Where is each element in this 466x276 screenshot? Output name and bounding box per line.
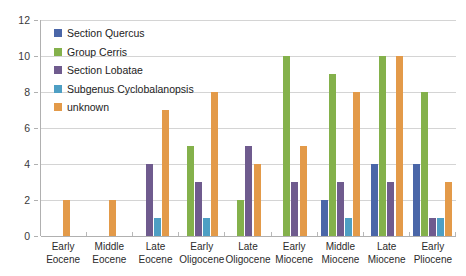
- bar: [300, 146, 307, 236]
- x-axis-label: EarlyOligocene: [179, 240, 225, 266]
- x-axis-label-line: Middle: [86, 240, 132, 253]
- x-axis-label-line: Eocene: [86, 253, 132, 266]
- legend-label: Section Quercus: [67, 27, 145, 39]
- x-axis-label-line: Eocene: [132, 253, 178, 266]
- y-tick-label: 8: [2, 86, 30, 98]
- bar: [237, 200, 244, 236]
- bar: [321, 200, 328, 236]
- x-axis-label-line: Middle: [317, 240, 363, 253]
- x-axis-label-line: Early: [179, 240, 225, 253]
- bar: [437, 218, 444, 236]
- y-tick-label: 6: [2, 122, 30, 134]
- x-axis-label: LateEocene: [132, 240, 178, 266]
- x-axis-label-line: Oligocene: [225, 253, 271, 266]
- bar: [187, 146, 194, 236]
- x-axis-label-line: Late: [132, 240, 178, 253]
- x-axis-label: EarlyPliocene: [410, 240, 456, 266]
- bar: [146, 164, 153, 236]
- legend-item: Section Quercus: [54, 24, 194, 43]
- y-tick-mark: [34, 56, 38, 57]
- y-tick-label: 2: [2, 194, 30, 206]
- bar: [203, 218, 210, 236]
- legend-swatch-icon: [54, 29, 62, 37]
- y-tick-mark: [34, 92, 38, 93]
- legend-item: Subgenus Cyclobalanopsis: [54, 80, 194, 99]
- y-tick-mark: [34, 128, 38, 129]
- bar-group: [272, 20, 318, 236]
- x-axis-label-line: Late: [225, 240, 271, 253]
- y-axis-labels: 024681012: [0, 20, 34, 236]
- x-axis-label: LateMiocene: [364, 240, 410, 266]
- x-axis-label-line: Miocene: [364, 253, 410, 266]
- y-tick-mark: [34, 164, 38, 165]
- bar: [291, 182, 298, 236]
- bar-group: [318, 20, 364, 236]
- bar: [371, 164, 378, 236]
- chart-legend: Section QuercusGroup CerrisSection Lobat…: [54, 24, 194, 117]
- bar: [429, 218, 436, 236]
- x-axis-label-line: Miocene: [271, 253, 317, 266]
- bar: [63, 200, 70, 236]
- x-axis-label: EarlyMiocene: [271, 240, 317, 266]
- y-tick-label: 10: [2, 50, 30, 62]
- bar-group: [225, 20, 271, 236]
- bar: [413, 164, 420, 236]
- bar: [396, 56, 403, 236]
- bar: [379, 56, 386, 236]
- x-axis-label-line: Eocene: [40, 253, 86, 266]
- x-axis-label: LateOligocene: [225, 240, 271, 266]
- y-tick-label: 0: [2, 230, 30, 242]
- bar: [154, 218, 161, 236]
- legend-label: Group Cerris: [67, 46, 127, 58]
- y-tick-mark: [34, 236, 38, 237]
- legend-item: unknown: [54, 98, 194, 117]
- y-tick-mark: [34, 200, 38, 201]
- bar: [245, 146, 252, 236]
- bar: [353, 92, 360, 236]
- bar: [387, 182, 394, 236]
- bar: [329, 74, 336, 236]
- bar-group: [364, 20, 410, 236]
- bar: [195, 182, 202, 236]
- x-axis-label: MiddleEocene: [86, 240, 132, 266]
- bar: [254, 164, 261, 236]
- legend-swatch-icon: [54, 85, 62, 93]
- legend-item: Section Lobatae: [54, 61, 194, 80]
- x-axis-label-line: Pliocene: [410, 253, 456, 266]
- bar: [283, 56, 290, 236]
- x-axis-label-line: Early: [271, 240, 317, 253]
- x-axis-label-line: Oligocene: [179, 253, 225, 266]
- x-axis-label-line: Late: [364, 240, 410, 253]
- legend-swatch-icon: [54, 66, 62, 74]
- bar-chart: 024681012 Section QuercusGroup CerrisSec…: [0, 0, 466, 276]
- bar: [162, 110, 169, 236]
- bar: [445, 182, 452, 236]
- x-axis-label-line: Early: [410, 240, 456, 253]
- bar-group: [410, 20, 456, 236]
- bar: [337, 182, 344, 236]
- legend-label: unknown: [67, 101, 109, 113]
- x-axis-labels: EarlyEoceneMiddleEoceneLateEoceneEarlyOl…: [40, 240, 456, 266]
- x-axis-label-line: Early: [40, 240, 86, 253]
- bar: [211, 92, 218, 236]
- bar: [109, 200, 116, 236]
- legend-label: Section Lobatae: [67, 64, 143, 76]
- y-tick-label: 4: [2, 158, 30, 170]
- x-axis-label: MiddleMiocene: [317, 240, 363, 266]
- legend-item: Group Cerris: [54, 43, 194, 62]
- axis-baseline: [41, 236, 456, 237]
- y-tick-mark: [34, 20, 38, 21]
- y-tick-label: 12: [2, 14, 30, 26]
- bar: [421, 92, 428, 236]
- legend-swatch-icon: [54, 48, 62, 56]
- x-axis-label: EarlyEocene: [40, 240, 86, 266]
- legend-label: Subgenus Cyclobalanopsis: [67, 83, 194, 95]
- legend-swatch-icon: [54, 103, 62, 111]
- bar: [345, 218, 352, 236]
- x-axis-label-line: Miocene: [317, 253, 363, 266]
